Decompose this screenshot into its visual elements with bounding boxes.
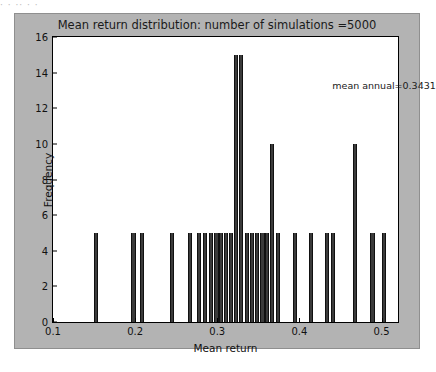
- x-axis-label: Mean return: [53, 342, 398, 354]
- x-tick-mark: [382, 318, 383, 322]
- y-tick-label: 14: [35, 67, 53, 78]
- histogram-bar: [370, 233, 374, 322]
- histogram-bar: [293, 233, 297, 322]
- histogram-bar: [209, 233, 213, 322]
- histogram-bar: [239, 55, 243, 322]
- y-tick-mark: [53, 215, 57, 216]
- histogram-bar: [265, 233, 269, 322]
- histogram-bar: [197, 233, 201, 322]
- x-tick-mark: [53, 318, 54, 322]
- histogram-bar: [229, 233, 233, 322]
- y-tick-mark: [53, 250, 57, 251]
- y-axis-label: Frequency: [42, 152, 54, 206]
- histogram-bar: [219, 233, 223, 322]
- y-tick-mark: [53, 286, 57, 287]
- histogram-bar: [255, 233, 259, 322]
- y-tick-label: 2: [42, 281, 53, 292]
- chart-title: Mean return distribution: number of simu…: [15, 18, 419, 32]
- clipped-top-text: · · ·· · ·: [0, 0, 435, 12]
- histogram-bar: [382, 233, 386, 322]
- histogram-bar: [224, 233, 228, 322]
- y-tick-label: 4: [42, 245, 53, 256]
- plot-axes: 0246810121416 0.10.20.30.40.5 Frequency …: [52, 36, 399, 323]
- x-tick-label: 0.5: [374, 322, 390, 337]
- histogram-bar: [188, 233, 192, 322]
- y-tick-mark: [53, 108, 57, 109]
- x-tick-label: 0.2: [127, 322, 143, 337]
- y-tick-label: 16: [35, 32, 53, 43]
- histogram-bar: [325, 233, 329, 322]
- x-tick-label: 0.1: [45, 322, 61, 337]
- histogram-bar: [331, 233, 335, 322]
- histogram-bar: [270, 144, 274, 322]
- histogram-bar: [131, 233, 135, 322]
- x-tick-mark: [217, 318, 218, 322]
- x-tick-label: 0.4: [291, 322, 307, 337]
- histogram-bar: [309, 233, 313, 322]
- matplotlib-figure: Mean return distribution: number of simu…: [14, 13, 420, 349]
- histogram-bar: [203, 233, 207, 322]
- histogram-bar: [245, 233, 249, 322]
- histogram-bar: [250, 233, 254, 322]
- histogram-bar: [140, 233, 144, 322]
- x-tick-mark: [135, 318, 136, 322]
- y-tick-label: 6: [42, 210, 53, 221]
- y-tick-mark: [53, 72, 57, 73]
- histogram-bar: [234, 55, 238, 322]
- histogram-bar: [214, 233, 218, 322]
- histogram-bar: [353, 144, 357, 322]
- y-tick-label: 10: [35, 138, 53, 149]
- y-tick-mark: [53, 37, 57, 38]
- x-tick-mark: [299, 318, 300, 322]
- histogram-bar: [170, 233, 174, 322]
- mean-annual-annotation: mean annual=0.3431: [332, 80, 436, 91]
- histogram-bar: [276, 233, 280, 322]
- y-tick-label: 12: [35, 103, 53, 114]
- x-tick-label: 0.3: [209, 322, 225, 337]
- y-tick-mark: [53, 143, 57, 144]
- histogram-bar: [94, 233, 98, 322]
- histogram-bar: [260, 233, 264, 322]
